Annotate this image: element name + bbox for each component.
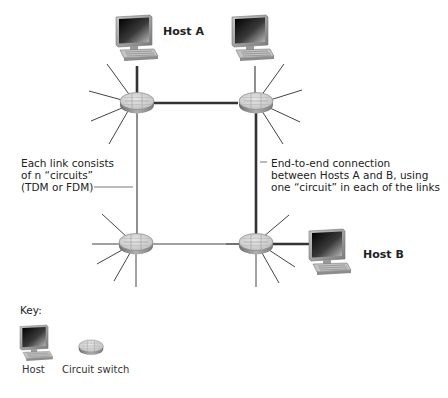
- legend-host-label: Host: [22, 364, 45, 375]
- host-b-icon: [309, 229, 351, 275]
- host-top-right-icon: [232, 15, 274, 61]
- circuit-switch-top-right-icon: [239, 93, 273, 114]
- annotation-line: End-to-end connection: [271, 157, 390, 170]
- key-host-icon: [20, 325, 53, 361]
- circuit-switch-bottom-left-icon: [119, 234, 153, 255]
- annotation-line: between Hosts A and B, using: [271, 169, 428, 182]
- annotation-line: of n “circuits”: [21, 169, 93, 182]
- legend-circuit-switch-label: Circuit switch: [62, 364, 129, 375]
- host-b-label: Host B: [363, 248, 404, 261]
- legend-title: Key:: [20, 304, 42, 316]
- host-a-label: Host A: [163, 25, 204, 38]
- annotation-line: Each link consists: [21, 157, 114, 170]
- annotation-line: (TDM or FDM): [21, 181, 93, 194]
- circuit-switch-bottom-right-icon: [239, 234, 273, 255]
- network-diagram: [0, 0, 448, 398]
- annotation-line: one “circuit” in each of the links: [271, 181, 440, 194]
- circuit-switch-top-left-icon: [120, 93, 154, 114]
- key-circuit-switch-icon: [79, 340, 103, 355]
- trunk-links: [94, 66, 310, 244]
- host-a-icon: [116, 15, 158, 61]
